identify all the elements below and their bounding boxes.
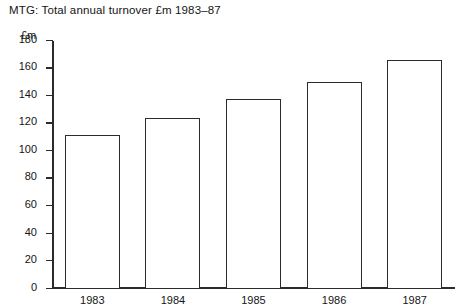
y-axis-tick: 60 (46, 205, 53, 206)
x-axis-label-1985: 1985 (213, 294, 294, 306)
y-axis-tick-label: 40 (25, 226, 37, 238)
y-axis-tick-label: 140 (19, 88, 37, 100)
y-axis-tick: 40 (46, 233, 53, 234)
bar-chart-figure: MTG: Total annual turnover £m 1983–87 £m… (0, 0, 471, 307)
chart-title: MTG: Total annual turnover £m 1983–87 (9, 4, 221, 16)
y-axis-tick: 120 (46, 122, 53, 123)
y-axis-tick-label: 180 (19, 33, 37, 45)
y-axis-tick-label: 60 (25, 198, 37, 210)
y-axis-tick-label: 0 (31, 281, 37, 293)
bar-1983 (65, 135, 120, 289)
y-axis-line (52, 41, 54, 289)
y-axis-tick-label: 160 (19, 60, 37, 72)
bar-1986 (307, 82, 362, 289)
bar-1985 (226, 99, 281, 289)
y-axis-tick: 20 (46, 260, 53, 261)
plot-area: 020406080100120140160180 198319841985198… (52, 41, 455, 289)
y-axis-tick-label: 20 (25, 253, 37, 265)
x-axis-label-1983: 1983 (52, 294, 133, 306)
y-axis-tick-label: 80 (25, 170, 37, 182)
x-axis-label-1986: 1986 (294, 294, 375, 306)
bar-1984 (145, 118, 200, 289)
y-axis-tick: 160 (46, 67, 53, 68)
y-axis-tick-label: 100 (19, 143, 37, 155)
x-axis-label-1984: 1984 (133, 294, 214, 306)
y-axis-tick: 180 (46, 40, 53, 41)
y-axis-tick: 0 (46, 288, 53, 289)
x-axis-label-1987: 1987 (374, 294, 455, 306)
y-axis-tick: 80 (46, 177, 53, 178)
y-axis-tick: 100 (46, 150, 53, 151)
y-axis-tick-label: 120 (19, 115, 37, 127)
bar-1987 (387, 60, 442, 289)
y-axis-tick: 140 (46, 95, 53, 96)
